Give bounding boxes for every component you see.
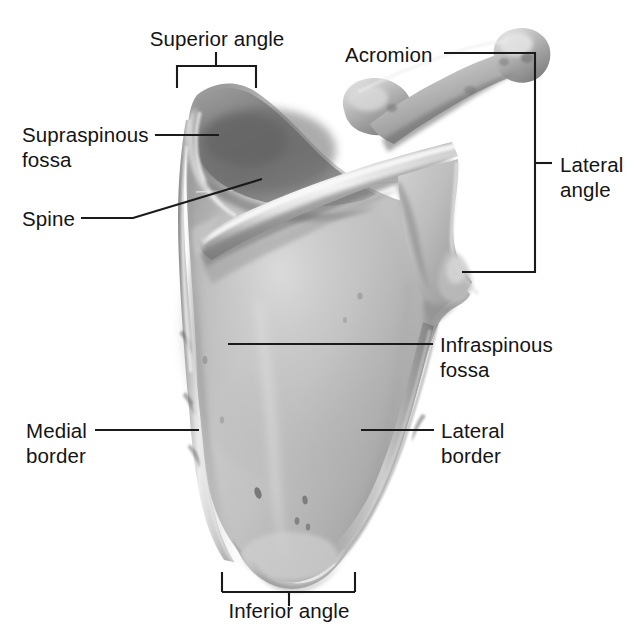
acromion-knob-pit	[387, 104, 397, 112]
lateral-border-notch	[412, 414, 426, 442]
label-infraspinous-fossa-line2: fossa	[440, 357, 490, 382]
foramen-7	[357, 292, 362, 299]
supraspinous-fossa-deep-shadow	[204, 114, 288, 166]
acromion-knob-highlight	[348, 85, 388, 111]
label-medial-border-line1: Medial	[26, 418, 87, 443]
foramen-3	[295, 517, 300, 525]
label-lateral-angle-line2: angle	[560, 177, 611, 202]
infraglenoid-highlight	[446, 256, 466, 284]
foramen-6	[220, 417, 224, 424]
foramen-5	[203, 356, 208, 364]
label-spine: Spine	[22, 206, 75, 231]
acromion-tip-pit-1	[521, 53, 533, 63]
foramen-8	[343, 317, 347, 323]
label-supraspinous-fossa-line1: Supraspinous	[22, 122, 149, 147]
label-acromion: Acromion	[345, 42, 432, 67]
foramen-4	[306, 524, 310, 531]
label-infraspinous-fossa-line1: Infraspinous	[440, 332, 553, 357]
acromion-tip-highlight	[499, 32, 533, 56]
label-lateral-border-line1: Lateral	[441, 418, 504, 443]
label-supraspinous-fossa-line2: fossa	[22, 147, 72, 172]
scapula-bone-illustration	[0, 0, 637, 628]
label-superior-angle: Superior angle	[142, 26, 292, 51]
label-inferior-angle: Inferior angle	[214, 598, 364, 623]
label-medial-border-line2: border	[26, 443, 86, 468]
label-lateral-border-line2: border	[441, 443, 501, 468]
scapula-anatomy-figure: Superior angle Acromion Supraspinous fos…	[0, 0, 637, 628]
acromion-tip-pit-2	[499, 58, 509, 66]
label-lateral-angle-line1: Lateral	[560, 152, 623, 177]
